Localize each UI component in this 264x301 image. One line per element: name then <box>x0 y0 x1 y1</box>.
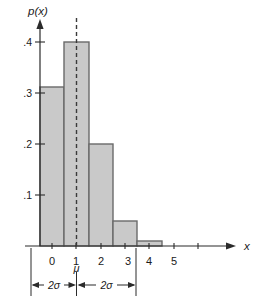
sigma-span-right: 2σ <box>78 278 136 292</box>
y-tick-label-2: .2 <box>23 138 32 150</box>
mean-mu-label: μ <box>72 262 79 274</box>
histogram-figure: .1 .2 .3 .4 p(x) 0 1 2 3 4 5 x <box>0 0 264 301</box>
sigma-span-left-label: 2σ <box>47 279 61 291</box>
x-tick-label-4: 4 <box>146 255 152 267</box>
y-tick-label-1: .1 <box>23 189 32 201</box>
bar-3 <box>113 221 137 246</box>
x-axis-arrowhead <box>226 242 236 249</box>
x-tick-label-0: 0 <box>49 255 55 267</box>
y-tick-label-4: .4 <box>23 36 32 48</box>
sigma-span-right-label: 2σ <box>99 279 113 291</box>
sigma-span-left: 2σ <box>32 278 77 292</box>
y-axis-arrowhead <box>36 19 43 29</box>
x-tick-labels: 0 1 2 3 4 5 <box>49 255 177 267</box>
bar-0 <box>40 87 64 246</box>
x-tick-label-5: 5 <box>171 255 177 267</box>
y-tick-label-3: .3 <box>23 87 32 99</box>
bar-2 <box>89 144 113 246</box>
sigma-span-right-arrowhead-start <box>78 282 86 288</box>
y-axis-title: p(x) <box>27 5 48 17</box>
x-tick-label-3: 3 <box>125 255 131 267</box>
x-tick-label-2: 2 <box>98 255 104 267</box>
chart-canvas: .1 .2 .3 .4 p(x) 0 1 2 3 4 5 x <box>0 0 264 301</box>
x-axis-title: x <box>243 240 251 252</box>
y-tick-labels: .1 .2 .3 .4 <box>23 36 32 201</box>
sigma-span-left-arrowhead-end <box>69 282 77 288</box>
bar-series <box>40 42 162 246</box>
sigma-span-right-arrowhead-end <box>128 282 136 288</box>
sigma-span-left-arrowhead-start <box>32 282 40 288</box>
